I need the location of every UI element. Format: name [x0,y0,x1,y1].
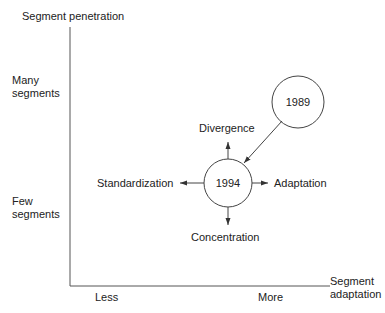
y-high-line2: segments [12,87,60,100]
node-1994-label: 1994 [216,177,240,189]
y-high-label: Many segments [12,74,60,100]
x-title-line1: Segment [330,275,381,288]
x-axis-title: Segment adaptation [330,275,381,301]
strategy-divergence: Divergence [199,122,255,135]
y-low-line2: segments [12,208,60,221]
y-low-line1: Few [12,195,60,208]
y-axis-title: Segment penetration [22,10,124,23]
diagram-canvas: 1989 1994 [0,0,385,313]
strategy-adaptation: Adaptation [274,177,327,190]
x-high-label: More [258,291,283,304]
strategy-concentration: Concentration [191,231,260,244]
x-title-line2: adaptation [330,288,381,301]
y-low-label: Few segments [12,195,60,221]
x-low-label: Less [95,291,118,304]
strategy-standardization: Standardization [97,177,173,190]
y-high-line1: Many [12,74,60,87]
node-1989-label: 1989 [286,96,310,108]
